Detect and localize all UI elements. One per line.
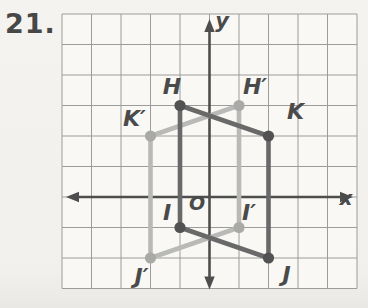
- x-axis-label: x: [339, 186, 354, 210]
- vertex-label-I: I: [163, 200, 171, 225]
- vertex-label-H-prime: H′: [243, 74, 267, 99]
- vertex-label-K-prime: K′: [123, 106, 146, 131]
- vertex-label-H: H: [163, 74, 181, 99]
- vertex-dot-K: [263, 130, 274, 141]
- vertex-dot-J: [263, 252, 274, 263]
- vertex-dot-H-prime: [233, 100, 244, 111]
- vertex-label-K: K: [287, 99, 306, 124]
- y-axis-label: y: [215, 9, 230, 33]
- vertex-label-I-prime: I′: [242, 200, 256, 225]
- textbook-page: 21. xyOH′K′J′I′HKJI: [0, 0, 368, 308]
- coordinate-grid-svg: xyOH′K′J′I′HKJI: [0, 0, 368, 308]
- origin-label: O: [189, 192, 205, 214]
- vertex-dot-I: [174, 222, 185, 233]
- coordinate-figure: xyOH′K′J′I′HKJI: [0, 0, 368, 308]
- vertex-dot-K-prime: [145, 130, 156, 141]
- vertex-dot-J-prime: [145, 252, 156, 263]
- vertex-dot-H: [174, 100, 185, 111]
